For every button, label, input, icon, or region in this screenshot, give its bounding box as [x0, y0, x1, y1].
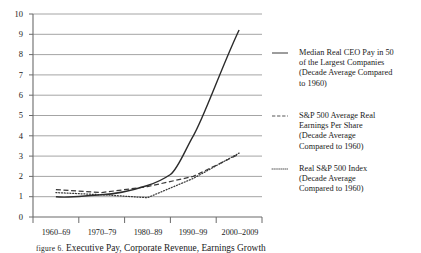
- legend-label-line: of the Largest Companies: [299, 58, 419, 68]
- y-tick-label: 7: [1, 71, 23, 80]
- legend-label-line: Compared to 1960): [299, 184, 419, 194]
- legend-label-line: S&P 500 Average Real: [299, 111, 419, 121]
- x-tick-label: 1990–99: [168, 228, 218, 237]
- legend-key-dashed-line: [268, 115, 292, 117]
- y-tick-label: 6: [1, 91, 23, 100]
- legend-label-real-sp500-index: Real S&P 500 Index (Decade Average Compa…: [299, 164, 419, 195]
- legend-label-line: Earnings Per Share: [299, 121, 419, 131]
- x-tick-label: 2000–2009: [213, 228, 267, 237]
- y-tick-label: 5: [1, 111, 23, 120]
- y-tick-label: 1: [1, 192, 23, 201]
- y-tick-label: 9: [1, 30, 23, 39]
- x-tick-label: 1960–69: [31, 228, 81, 237]
- x-axis-ticks: [33, 217, 262, 223]
- legend-key-dotted-line: [268, 168, 292, 170]
- y-tick-label: 0: [1, 213, 23, 222]
- y-axis-ticks: [29, 14, 33, 217]
- figure-caption-text: Executive Pay, Corporate Revenue, Earnin…: [66, 243, 266, 253]
- y-tick-label: 4: [1, 132, 23, 141]
- figure-caption-label: figure 6.: [36, 244, 64, 253]
- series-line-median-real-ceo-pay: [56, 30, 239, 197]
- legend-label-median-real-ceo-pay: Median Real CEO Pay in 50 of the Largest…: [299, 48, 419, 89]
- y-tick-label: 10: [1, 10, 23, 19]
- legend-label-line: (Decade Average: [299, 131, 419, 141]
- legend-label-line: to 1960): [299, 79, 419, 89]
- x-tick-label: 1980–89: [123, 228, 173, 237]
- legend-label-line: Real S&P 500 Index: [299, 164, 419, 174]
- legend-label-line: Compared to 1960): [299, 142, 419, 152]
- legend-label-line: (Decade Average: [299, 174, 419, 184]
- chart-legend: Median Real CEO Pay in 50 of the Largest…: [268, 0, 421, 253]
- y-tick-label: 8: [1, 50, 23, 59]
- legend-label-sp500-earnings-per-share: S&P 500 Average Real Earnings Per Share …: [299, 111, 419, 152]
- legend-key-solid-line: [268, 52, 292, 54]
- figure-container: 10 9 8 7 6 5 4 3 2 1 0 1960–69 1970–79 1…: [0, 0, 421, 253]
- gridlines: [33, 14, 262, 197]
- x-tick-label: 1970–79: [77, 228, 127, 237]
- y-tick-label: 2: [1, 172, 23, 181]
- series-line-sp500-earnings-per-share: [56, 154, 239, 193]
- figure-caption: figure 6. Executive Pay, Corporate Reven…: [36, 243, 336, 253]
- y-tick-label: 3: [1, 152, 23, 161]
- legend-label-line: (Decade Average Compared: [299, 68, 419, 78]
- legend-label-line: Median Real CEO Pay in 50: [299, 48, 419, 58]
